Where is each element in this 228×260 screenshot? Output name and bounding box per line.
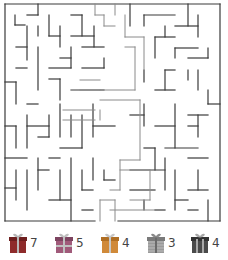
gift-red-icon [8, 232, 28, 254]
gift-item-5: 4 [186, 230, 226, 256]
gift-item-2: 5 [50, 230, 90, 256]
gift-purple-icon [54, 232, 74, 254]
gift-item-3: 4 [96, 230, 136, 256]
maze-walls [5, 4, 220, 221]
maze-board [0, 0, 228, 226]
gift-count: 4 [122, 236, 130, 250]
gift-item-4: 3 [142, 230, 182, 256]
gift-count: 3 [168, 236, 176, 250]
gift-orange-icon [100, 232, 120, 254]
gift-count: 4 [212, 236, 220, 250]
gift-count: 7 [30, 236, 38, 250]
gift-dark-icon [190, 232, 210, 254]
gift-striped-icon [146, 232, 166, 254]
gift-count: 5 [76, 236, 84, 250]
gift-legend: 7 5 4 3 4 [0, 228, 228, 258]
gift-item-1: 7 [4, 230, 44, 256]
